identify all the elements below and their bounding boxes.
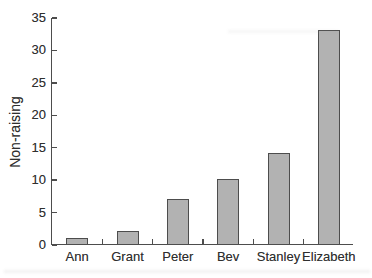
y-tick-mark xyxy=(52,82,57,84)
y-tick-mark xyxy=(52,50,57,52)
y-tick-mark xyxy=(52,17,57,19)
bar-bev xyxy=(217,179,239,244)
y-tick-mark xyxy=(52,147,57,149)
y-tick-label: 25 xyxy=(8,76,46,90)
bar-grant xyxy=(117,231,139,244)
bar-ann xyxy=(66,238,88,244)
bar-peter xyxy=(167,199,189,244)
y-tick-label: 20 xyxy=(8,108,46,122)
y-tick-mark xyxy=(52,212,57,214)
y-tick-mark xyxy=(52,244,57,246)
y-tick-label: 15 xyxy=(8,141,46,155)
plot-area: 05101520253035AnnGrantPeterBevStanleyEli… xyxy=(51,18,353,245)
y-tick-mark xyxy=(52,179,57,181)
x-tick-mark xyxy=(202,239,204,244)
x-tick-mark xyxy=(303,239,305,244)
y-axis-title: Non-raising xyxy=(7,82,23,182)
y-tick-label: 35 xyxy=(8,11,46,25)
bar-stanley xyxy=(268,153,290,244)
y-tick-label: 30 xyxy=(8,43,46,57)
x-category-label: Elizabeth xyxy=(289,250,369,264)
x-tick-mark xyxy=(253,239,255,244)
scan-artifact xyxy=(4,270,370,273)
x-tick-mark xyxy=(152,239,154,244)
scan-artifact xyxy=(228,30,338,33)
x-tick-mark xyxy=(102,239,104,244)
y-tick-mark xyxy=(52,115,57,117)
bar-chart-figure: Non-raising 05101520253035AnnGrantPeterB… xyxy=(0,0,372,278)
y-tick-label: 10 xyxy=(8,173,46,187)
y-tick-label: 5 xyxy=(8,206,46,220)
bar-elizabeth xyxy=(318,30,340,244)
